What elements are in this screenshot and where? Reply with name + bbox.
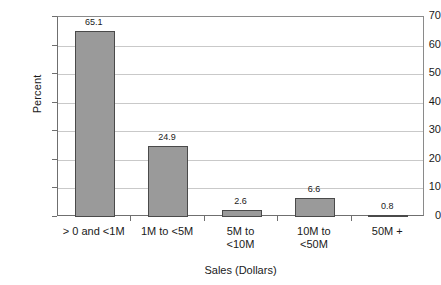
bar-chart: Percent 010203040506070 > 0 and <1M1M to… <box>0 0 441 285</box>
x-axis-category-label: > 0 and <1M <box>54 225 134 238</box>
bar <box>75 31 115 217</box>
bar <box>148 146 188 217</box>
plot-area <box>57 16 424 216</box>
y-axis-tick <box>52 216 57 217</box>
bar <box>295 198 335 217</box>
bar-value-label: 2.6 <box>211 197 271 206</box>
bar <box>222 210 262 217</box>
bar <box>368 215 408 217</box>
x-axis-category-label: 10M to <50M <box>274 225 354 251</box>
bar-value-label: 65.1 <box>64 18 124 27</box>
x-axis-category-label: 5M to <10M <box>201 225 281 251</box>
x-axis-category-label: 50M + <box>347 225 427 238</box>
bar-value-label: 6.6 <box>284 185 344 194</box>
bar-value-label: 0.8 <box>357 202 417 211</box>
y-axis-title: Percent <box>31 59 43 129</box>
x-axis-tick <box>130 216 131 221</box>
bar-value-label: 24.9 <box>137 133 197 142</box>
x-axis-title: Sales (Dollars) <box>57 264 424 276</box>
x-axis-category-label: 1M to <5M <box>127 225 207 238</box>
x-axis-tick <box>204 216 205 221</box>
x-axis-tick <box>277 216 278 221</box>
x-axis-tick <box>351 216 352 221</box>
